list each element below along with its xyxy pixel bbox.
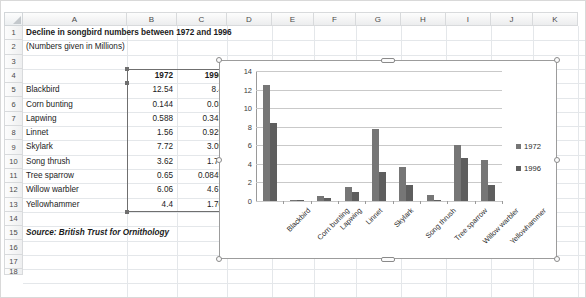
legend-item-1972[interactable]: 1972 [516,142,541,151]
cell-a13-species[interactable]: Yellowhammer [26,198,127,212]
column-header-d[interactable]: D [227,12,272,26]
cell-a7-species[interactable]: Lapwing [26,112,127,126]
column-header-f[interactable]: F [314,12,356,26]
chart-x-tick [311,201,312,204]
column-header-k[interactable]: K [533,12,578,26]
range-handle[interactable] [125,67,129,71]
column-header-b[interactable]: B [127,12,177,26]
range-handle[interactable] [125,210,129,214]
cell-c9-value-1996[interactable]: 3.09 [177,140,223,154]
chart-bar-1996-yellowhammer[interactable] [488,185,495,201]
legend-item-1996[interactable]: 1996 [516,164,541,173]
cell-b5-value-1972[interactable]: 12.54 [127,83,173,97]
column-header-i[interactable]: I [446,12,491,26]
row-header-5[interactable]: 5 [4,83,23,97]
row-header-13[interactable]: 13 [4,198,23,212]
cell-b8-value-1972[interactable]: 1.56 [127,126,173,140]
column-header-c[interactable]: C [177,12,227,26]
row-header-3[interactable]: 3 [4,55,23,69]
cell-b9-value-1972[interactable]: 7.72 [127,140,173,154]
chart-x-tick [365,201,366,204]
row-header-8[interactable]: 8 [4,126,23,140]
row-header-15[interactable]: 15 [4,226,23,240]
row-header-1[interactable]: 1 [4,26,23,40]
cell-b4-header-1972[interactable]: 1972 [127,69,173,83]
worksheet[interactable]: ABCDEFGHIJK 123456789101112131415161718 … [1,1,586,298]
chart-bar-1972-willow-warbler[interactable] [454,145,461,201]
row-header-10[interactable]: 10 [4,155,23,169]
cell-b11-value-1972[interactable]: 0.65 [127,169,173,183]
row-header-12[interactable]: 12 [4,183,23,197]
chart-x-label-skylark: Skylark [392,206,415,229]
cell-a2-subtitle[interactable]: (Numbers given in Millions) [26,40,226,54]
select-all-corner[interactable] [4,12,23,26]
row-header-9[interactable]: 9 [4,140,23,154]
cell-c8-value-1996[interactable]: 0.925 [177,126,223,140]
chart-bar-1972-yellowhammer[interactable] [481,160,488,201]
chart-bar-1972-tree-sparrow[interactable] [427,195,434,201]
chart-bar-1996-tree-sparrow[interactable] [434,200,441,201]
chart-bar-1972-lapwing[interactable] [317,196,324,201]
row-header-11[interactable]: 11 [4,169,23,183]
chart-bar-1972-song-thrush[interactable] [399,167,406,201]
chart-bar-1996-song-thrush[interactable] [406,185,413,201]
cell-b13-value-1972[interactable]: 4.4 [127,198,173,212]
row-header-4[interactable]: 4 [4,69,23,83]
chart-resize-handle[interactable] [381,257,395,262]
chart-bar-1996-linnet[interactable] [352,192,359,201]
cell-b10-value-1972[interactable]: 3.62 [127,155,173,169]
cell-c6-value-1996[interactable]: 0.03 [177,98,223,112]
cell-b7-value-1972[interactable]: 0.588 [127,112,173,126]
chart-gridline [256,127,502,128]
row-header-14[interactable]: 14 [4,212,23,226]
chart-resize-handle[interactable] [554,57,560,63]
range-handle[interactable] [125,81,129,85]
chart-bar-1996-lapwing[interactable] [324,198,331,201]
chart-resize-handle[interactable] [216,57,222,63]
row-header-7[interactable]: 7 [4,112,23,126]
chart-resize-handle[interactable] [216,157,222,163]
chart-bar-1972-skylark[interactable] [372,129,379,201]
embedded-chart[interactable]: 02468101214 BlackbirdCorn buntingLapwing… [219,60,557,259]
column-header-g[interactable]: G [356,12,401,26]
cell-b12-value-1972[interactable]: 6.06 [127,183,173,197]
chart-resize-handle[interactable] [381,58,395,63]
column-header-j[interactable]: J [491,12,533,26]
chart-x-label-linnet: Linnet [363,206,383,226]
chart-bar-1972-blackbird[interactable] [263,85,270,201]
chart-resize-handle[interactable] [554,157,560,163]
cell-b6-value-1972[interactable]: 0.144 [127,98,173,112]
cell-a12-species[interactable]: Willow warbler [26,183,127,197]
cell-c4-header-1996[interactable]: 1996 [177,69,223,83]
chart-bar-1972-linnet[interactable] [345,187,352,201]
chart-legend[interactable]: 19721996 [516,142,541,186]
cell-a10-species[interactable]: Song thrush [26,155,127,169]
chart-bar-1996-blackbird[interactable] [270,123,277,201]
chart-gridline [256,71,502,72]
cell-c7-value-1996[interactable]: 0.341 [177,112,223,126]
row-header-16[interactable]: 16 [4,240,23,254]
chart-bar-1972-corn-bunting[interactable] [290,200,297,201]
row-header-6[interactable]: 6 [4,97,23,111]
chart-gridline [256,145,502,146]
column-header-e[interactable]: E [272,12,314,26]
cell-a6-species[interactable]: Corn bunting [26,98,127,112]
cell-a5-species[interactable]: Blackbird [26,83,127,97]
column-header-a[interactable]: A [23,12,127,26]
column-header-h[interactable]: H [401,12,446,26]
cell-a11-species[interactable]: Tree sparrow [26,169,127,183]
row-header-18[interactable]: 18 [4,269,23,275]
chart-bar-1996-skylark[interactable] [379,172,386,201]
cell-c11-value-1996[interactable]: 0.0845 [177,169,223,183]
chart-bar-1996-corn-bunting[interactable] [297,200,304,201]
row-header-2[interactable]: 2 [4,40,23,54]
cell-c12-value-1996[interactable]: 4.67 [177,183,223,197]
chart-bar-1996-willow-warbler[interactable] [461,158,468,201]
cell-a1-title[interactable]: Decline in songbird numbers between 1972… [26,26,266,40]
chart-resize-handle[interactable] [554,256,560,262]
cell-a8-species[interactable]: Linnet [26,126,127,140]
cell-a9-species[interactable]: Skylark [26,140,127,154]
cell-c13-value-1996[interactable]: 1.76 [177,198,223,212]
chart-resize-handle[interactable] [216,256,222,262]
cell-c5-value-1996[interactable]: 8.4 [177,83,223,97]
